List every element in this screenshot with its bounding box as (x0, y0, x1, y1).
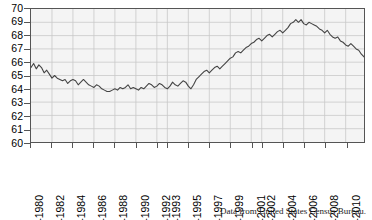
x-tick-mark (30, 143, 31, 148)
y-tick-label: 61 (0, 124, 23, 135)
y-tick-label: 63 (0, 97, 23, 108)
x-tick-mark (230, 143, 231, 148)
y-tick-label: 60 (0, 138, 23, 149)
x-tick-mark (252, 143, 253, 148)
x-tick-mark (283, 143, 284, 148)
x-tick-label: Q1-1993 (171, 195, 182, 220)
x-tick-label: Q1-1980 (34, 195, 45, 220)
x-tick-mark (72, 143, 73, 148)
x-tick-mark (136, 143, 137, 148)
y-tick-label: 65 (0, 70, 23, 81)
x-tick-mark (114, 143, 115, 148)
x-tick-mark (209, 143, 210, 148)
x-tick-mark (325, 143, 326, 148)
y-tick-label: 69 (0, 16, 23, 27)
x-axis-tick-marks (30, 143, 365, 148)
x-tick-mark (51, 143, 52, 148)
x-tick-mark (262, 143, 263, 148)
x-tick-mark (347, 143, 348, 148)
y-tick-label: 68 (0, 30, 23, 41)
x-tick-label: Q1-1984 (76, 195, 87, 220)
x-tick-label: Q1-1986 (97, 195, 108, 220)
x-tick-label: Q1-1995 (192, 195, 203, 220)
y-tick-label: 66 (0, 57, 23, 68)
x-tick-mark (167, 143, 168, 148)
x-tick-mark (304, 143, 305, 148)
chart-caption: Data from United States Census Bureau. (220, 206, 366, 217)
x-tick-label: Q1-1988 (118, 195, 129, 220)
y-axis-labels: 6061626364656667686970 (0, 0, 23, 151)
x-tick-mark (188, 143, 189, 148)
plot-area (30, 8, 365, 143)
y-tick-label: 62 (0, 111, 23, 122)
data-series-line (31, 9, 364, 142)
x-tick-label: Q1-1990 (140, 195, 151, 220)
y-tick-label: 67 (0, 43, 23, 54)
y-tick-label: 64 (0, 84, 23, 95)
x-axis-labels: Q1-1980Q1-1982Q1-1984Q1-1986Q1-1988Q1-19… (30, 149, 365, 197)
chart-figure: 6061626364656667686970 Q1-1980Q1-1982Q1-… (0, 0, 372, 220)
x-tick-mark (93, 143, 94, 148)
x-tick-label: Q1-1982 (55, 195, 66, 220)
x-tick-mark (157, 143, 158, 148)
y-tick-label: 70 (0, 3, 23, 14)
